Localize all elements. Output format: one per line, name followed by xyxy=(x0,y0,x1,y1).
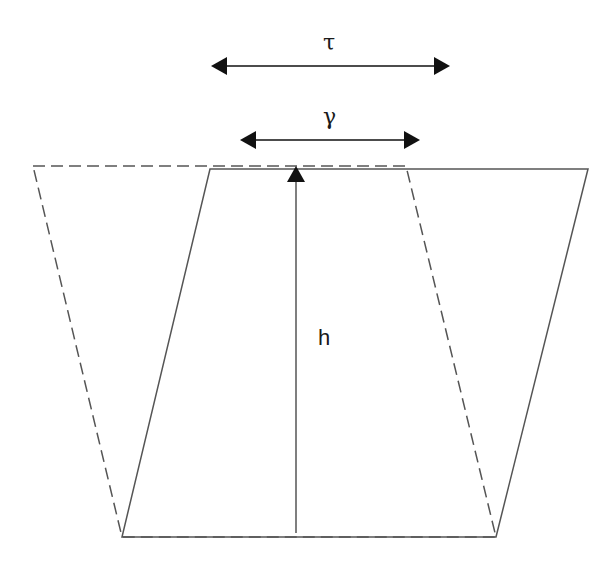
tau-arrow-right-icon xyxy=(434,57,450,75)
gamma-arrow-left-icon xyxy=(240,131,256,149)
tau-arrow-left-icon xyxy=(211,57,227,75)
diagram-svg xyxy=(0,0,606,561)
tau-label: τ xyxy=(323,30,335,55)
shear-deformation-diagram: τ γ h xyxy=(0,0,606,561)
dashed-trapezoid xyxy=(33,166,496,537)
height-label: h xyxy=(318,325,330,351)
gamma-label: γ xyxy=(323,104,336,129)
solid-parallelogram xyxy=(122,169,588,537)
gamma-arrow-right-icon xyxy=(404,131,420,149)
